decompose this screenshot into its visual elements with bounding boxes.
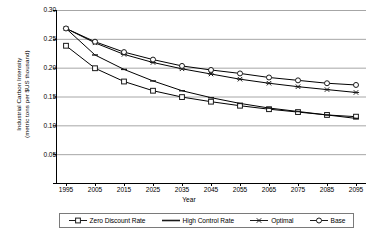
x-tick-label: 2005 (80, 186, 110, 194)
x-tick-label: 2045 (196, 186, 226, 194)
marker-asterisk (256, 218, 262, 222)
x-tick-label: 2065 (254, 186, 284, 194)
legend-marker-asterisk-icon (249, 216, 269, 225)
x-tick-label: 2075 (283, 186, 313, 194)
marker-circle (151, 57, 156, 62)
x-tick-label: 2025 (138, 186, 168, 194)
marker-circle (64, 26, 69, 31)
legend-marker-square-icon (68, 216, 88, 225)
chart-legend: Zero Discount RateHigh Control RateOptim… (59, 213, 354, 228)
legend-item[interactable]: High Control Rate (160, 216, 236, 225)
legend-marker-circle-icon (309, 216, 329, 225)
marker-square (122, 79, 127, 84)
legend-item[interactable]: Optimal (248, 216, 294, 225)
legend-item[interactable]: Base (308, 216, 347, 225)
x-tick-label: 2015 (109, 186, 139, 194)
marker-square (64, 43, 69, 48)
legend-label: High Control Rate (183, 217, 235, 224)
marker-circle (267, 75, 272, 80)
legend-marker-none-icon (161, 216, 181, 225)
marker-square (93, 66, 98, 71)
legend-label: Base (331, 217, 346, 224)
marker-circle (325, 81, 330, 86)
marker-square (75, 218, 80, 223)
legend-item[interactable]: Zero Discount Rate (67, 216, 147, 225)
marker-circle (122, 50, 127, 55)
marker-circle (180, 63, 185, 68)
marker-circle (93, 39, 98, 44)
x-tick-label: 2095 (341, 186, 371, 194)
marker-square (151, 88, 156, 93)
marker-square (180, 95, 185, 100)
x-tick-label: 2085 (312, 186, 342, 194)
x-axis-title: Year (0, 196, 378, 203)
marker-circle (238, 71, 243, 76)
marker-circle (209, 67, 214, 72)
x-tick-label: 2055 (225, 186, 255, 194)
marker-circle (354, 82, 359, 87)
legend-label: Zero Discount Rate (90, 217, 146, 224)
x-tick-label: 1995 (51, 186, 81, 194)
chart-container: Industrial Carbon Intensity (metric tons… (0, 0, 378, 233)
marker-square (209, 99, 214, 104)
x-tick-label: 2035 (167, 186, 197, 194)
marker-circle (296, 78, 301, 83)
marker-circle (316, 218, 321, 223)
legend-label: Optimal (271, 217, 293, 224)
